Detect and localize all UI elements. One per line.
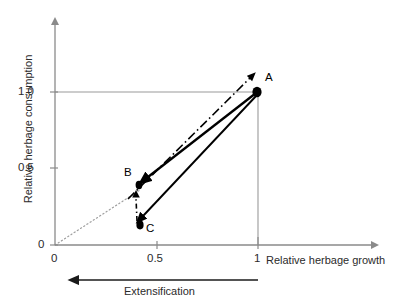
data-point-label-b: B (124, 166, 132, 178)
y-axis-title: Relative herbage consumption (22, 54, 34, 204)
data-point-label-c: C (146, 222, 154, 234)
x-axis-tick-label-0.5: 0.5 (147, 252, 163, 264)
extensification-label: Extensification (124, 285, 195, 297)
one-to-one-dotted-line (55, 190, 140, 245)
arrow-a-to-b (148, 93, 256, 177)
data-point-a[interactable] (252, 87, 261, 97)
y-axis-tick-label-0.5: 0.5 (18, 161, 34, 173)
arrow-a-to-c (143, 95, 257, 216)
dash-dot-segment-c-to-diagonal (136, 198, 137, 221)
data-point-b[interactable] (136, 181, 143, 189)
data-point-label-a: A (265, 71, 273, 83)
chart-figure: Relative herbage consumption 1.0 0.5 0 0… (0, 0, 393, 307)
y-axis-tick-label-1: 1.0 (18, 85, 34, 97)
data-point-c[interactable] (136, 221, 143, 230)
x-axis-tick-label-0: 0 (51, 252, 57, 264)
x-axis-tick-label-1: 1 (254, 252, 260, 264)
dash-dot-trajectory-through-a (128, 78, 250, 199)
y-axis-tick-label-0: 0 (38, 238, 44, 250)
x-axis-title: Relative herbage growth (266, 254, 385, 266)
